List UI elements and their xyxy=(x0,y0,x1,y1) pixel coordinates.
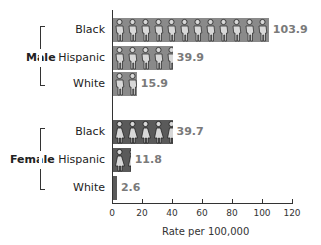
male-figure-icon xyxy=(217,18,230,42)
value-label: 103.9 xyxy=(273,23,308,36)
x-tick xyxy=(292,199,293,204)
bar-female-hispanic xyxy=(113,148,131,172)
male-figure-icon xyxy=(230,18,243,42)
male-figure-icon xyxy=(152,46,165,70)
male-figure-icon xyxy=(191,18,204,42)
bar-male-white xyxy=(113,72,137,96)
male-figure-icon xyxy=(139,18,152,42)
bar-male-black xyxy=(113,18,269,42)
female-figure-icon xyxy=(113,148,126,172)
x-tick xyxy=(262,199,263,204)
male-figure-icon xyxy=(165,46,173,70)
male-figure-icon xyxy=(178,18,191,42)
x-tick-label: 40 xyxy=(157,208,187,218)
category-label: Black xyxy=(45,23,105,36)
male-figure-icon xyxy=(126,72,137,96)
male-figure-icon xyxy=(126,46,139,70)
x-tick xyxy=(172,199,173,204)
male-figure-icon xyxy=(113,46,126,70)
female-figure-icon xyxy=(152,120,165,144)
male-figure-icon xyxy=(126,18,139,42)
y-axis-line xyxy=(112,10,113,204)
male-figure-icon xyxy=(113,18,126,42)
value-label: 11.8 xyxy=(135,153,162,166)
female-figure-icon xyxy=(113,120,126,144)
female-figure-icon xyxy=(139,120,152,144)
value-label: 15.9 xyxy=(141,77,168,90)
x-tick xyxy=(142,199,143,204)
category-label: Black xyxy=(45,125,105,138)
male-figure-icon xyxy=(243,18,256,42)
x-tick-label: 120 xyxy=(277,208,307,218)
male-figure-icon xyxy=(165,18,178,42)
x-axis-title: Rate per 100,000 xyxy=(162,226,262,237)
male-figure-icon xyxy=(139,46,152,70)
male-figure-icon xyxy=(152,18,165,42)
value-label: 39.7 xyxy=(177,125,204,138)
bar-female-white xyxy=(113,176,117,200)
x-tick-label: 100 xyxy=(247,208,277,218)
x-tick xyxy=(202,199,203,204)
male-figure-icon xyxy=(256,18,269,42)
category-label: White xyxy=(45,77,105,90)
category-label: Hispanic xyxy=(45,51,105,64)
value-label: 39.9 xyxy=(177,51,204,64)
x-tick-label: 0 xyxy=(97,208,127,218)
bar-male-hispanic xyxy=(113,46,173,70)
value-label: 2.6 xyxy=(121,181,141,194)
male-figure-icon xyxy=(113,72,126,96)
category-label: White xyxy=(45,181,105,194)
x-tick-label: 80 xyxy=(217,208,247,218)
category-label: Hispanic xyxy=(45,153,105,166)
female-figure-icon xyxy=(165,120,173,144)
bar-female-black xyxy=(113,120,173,144)
male-figure-icon xyxy=(204,18,217,42)
x-tick xyxy=(232,199,233,204)
female-figure-icon xyxy=(126,148,131,172)
x-tick-label: 60 xyxy=(187,208,217,218)
x-tick-label: 20 xyxy=(127,208,157,218)
pictograph-bar-chart: MaleBlack103.9Hispanic39.9White15.9Femal… xyxy=(0,0,321,245)
female-figure-icon xyxy=(126,120,139,144)
